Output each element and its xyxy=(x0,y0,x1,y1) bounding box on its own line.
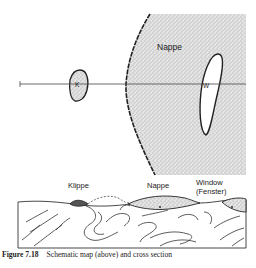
window-section-label: Window xyxy=(196,178,223,187)
eroded-nappe-trace xyxy=(88,196,130,204)
cross-section: Klippe Nappe Window (Fenster) xyxy=(18,178,246,248)
nappe-map-label: Nappe xyxy=(157,42,182,52)
fenster-section-label: (Fenster) xyxy=(196,187,227,196)
klippe-section-label: Klippe xyxy=(68,181,89,190)
klippe-map-marker: K xyxy=(75,81,80,88)
figure-number: Figure 7.18 xyxy=(2,250,39,259)
section-frame xyxy=(18,200,246,248)
window-map-marker: W xyxy=(203,82,210,89)
figure: Nappe K W Klippe Nappe Window (Fenster) xyxy=(0,0,256,268)
figure-caption: Figure 7.18Schematic map (above) and cro… xyxy=(2,250,256,259)
schematic-map: Nappe K W xyxy=(20,14,246,175)
nappe-section-label: Nappe xyxy=(147,181,169,190)
klippe-lens xyxy=(70,200,88,206)
caption-text: Schematic map (above) and cross section xyxy=(47,250,172,259)
